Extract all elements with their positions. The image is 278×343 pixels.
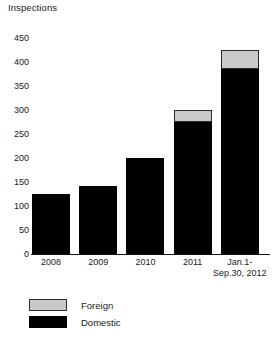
y-axis-tick-450: 450 (1, 34, 29, 43)
bar-segment-domestic (79, 186, 117, 254)
y-axis-tick-400: 400 (1, 58, 29, 67)
x-axis-baseline (31, 254, 270, 255)
x-axis-tick: Jan.1-Sep.30, 2012 (209, 257, 271, 279)
plot-area (31, 20, 269, 254)
bar-segment-domestic (32, 194, 70, 254)
legend-label: Foreign (81, 300, 113, 311)
y-axis-tick-50: 50 (1, 226, 29, 235)
legend-swatch-domestic (29, 316, 67, 328)
y-axis-tick-150: 150 (1, 178, 29, 187)
x-axis-tick-line: Sep.30, 2012 (209, 268, 271, 279)
y-axis: 450400350300250200150100500 (0, 0, 29, 343)
bar-segment-foreign (174, 110, 212, 122)
inspections-bar-chart: Inspections 450400350300250200150100500 … (0, 0, 278, 343)
legend-item[interactable]: Domestic (29, 315, 189, 331)
y-axis-tick-350: 350 (1, 82, 29, 91)
bar-segment-domestic (221, 69, 259, 254)
y-axis-tick-200: 200 (1, 154, 29, 163)
legend-label: Domestic (81, 317, 121, 328)
legend-item[interactable]: Foreign (29, 298, 189, 314)
chart-legend: ForeignDomestic (29, 298, 189, 332)
x-axis-tick-line: Jan.1- (209, 257, 271, 268)
legend-swatch-foreign (29, 299, 67, 311)
y-axis-tick-100: 100 (1, 202, 29, 211)
bar-segment-domestic (174, 122, 212, 254)
bar-segment-domestic (126, 158, 164, 254)
bar-segment-foreign (221, 50, 259, 69)
y-axis-tick-300: 300 (1, 106, 29, 115)
x-axis-labels: 2008200920102011Jan.1-Sep.30, 2012 (31, 257, 270, 289)
y-axis-tick-250: 250 (1, 130, 29, 139)
